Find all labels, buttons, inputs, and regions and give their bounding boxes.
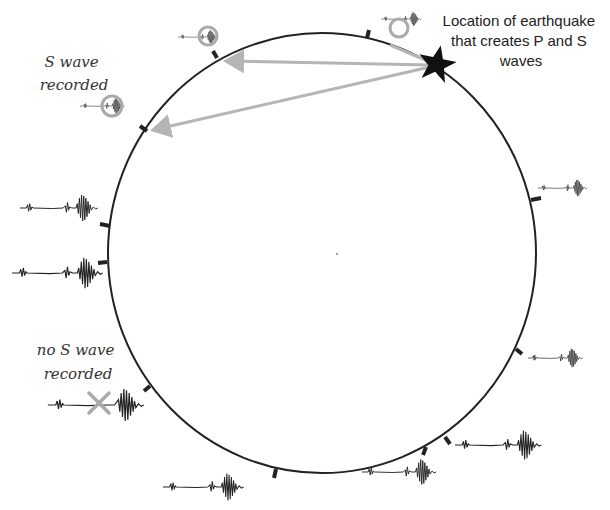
- seismogram-right-lower: [528, 349, 583, 367]
- station-tick: [213, 51, 217, 58]
- seismogram-bottom-left: [163, 474, 244, 501]
- epicenter-label: Location of earthquake that creates P an…: [443, 12, 600, 69]
- no-s-wave-recorded-label: no S wave recorded: [37, 341, 119, 383]
- station-tick: [516, 349, 522, 354]
- s-wave-highlight-circle: [390, 19, 408, 37]
- earthquake-wave-diagram: Location of earthquake that creates P an…: [0, 0, 610, 510]
- wave-path-arrow-top: [226, 61, 430, 65]
- seismogram-bottom-right-2: [455, 431, 541, 460]
- station-tick: [423, 447, 426, 455]
- seismogram-left-1: [20, 195, 98, 221]
- earth-cross-section: [108, 33, 536, 473]
- station-tick: [367, 30, 369, 38]
- station-tick: [274, 469, 276, 478]
- no-s-wave-x-icon: [89, 393, 109, 413]
- station-tick: [144, 386, 150, 391]
- s-wave-recorded-label: S wave recorded: [40, 53, 109, 94]
- station-tick: [531, 198, 541, 200]
- seismogram-bottom-right-1: [362, 460, 436, 485]
- seismogram-left-2: [12, 258, 103, 288]
- station-tick: [98, 262, 107, 263]
- station-tick: [445, 437, 450, 444]
- station-tick: [100, 224, 110, 226]
- earth-center-dot: [336, 253, 338, 255]
- station-ticks: [98, 30, 541, 478]
- seismogram-right-upper: [538, 180, 587, 196]
